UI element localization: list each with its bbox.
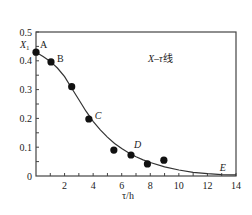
data-point	[47, 58, 54, 65]
x-tick-label: 4	[91, 180, 96, 191]
y-tick-label: 0.2	[20, 113, 33, 124]
data-points	[32, 49, 167, 168]
x-tick-label: 14	[231, 180, 241, 191]
y-tick-label: 0.5	[20, 27, 33, 38]
point-label-a: A	[40, 39, 48, 50]
y-tick-label: 0.3	[20, 84, 33, 95]
fitted-curve	[36, 52, 236, 175]
x-axis-label: τ/h	[122, 190, 134, 201]
y-tick-label: 0.4	[20, 55, 33, 66]
y-special-label: X1	[19, 39, 30, 52]
chart-annotation: X–τ线	[147, 52, 173, 64]
x-tick-label: 2	[62, 180, 67, 191]
y-tick-label: 0	[27, 171, 32, 182]
x-tick-label: 8	[148, 180, 153, 191]
point-label-b: B	[57, 53, 64, 64]
axes: 246810121400.10.20.30.40.5X1	[19, 27, 241, 192]
point-label-d: D	[133, 139, 142, 150]
x-tick-label: 12	[202, 180, 212, 191]
data-point	[160, 157, 167, 164]
point-label-c: C	[95, 110, 102, 121]
data-point	[110, 146, 117, 153]
data-point	[68, 83, 75, 90]
data-point	[144, 160, 151, 167]
data-point	[85, 115, 92, 122]
data-point	[127, 151, 134, 158]
data-point	[32, 49, 39, 56]
chart: 246810121400.10.20.30.40.5X1 ABCDE X–τ线 …	[0, 0, 252, 215]
x-tick-label: 10	[174, 180, 184, 191]
plot-frame	[36, 32, 236, 176]
point-label-e: E	[219, 162, 226, 173]
y-tick-label: 0.1	[20, 142, 33, 153]
